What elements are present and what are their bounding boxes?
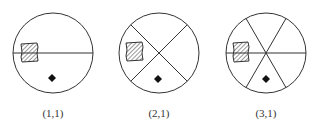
panel-label: (3,1) bbox=[246, 107, 286, 119]
diamond-icon bbox=[262, 75, 270, 83]
diamond-icon bbox=[48, 74, 56, 82]
panel-2-1 bbox=[119, 13, 199, 93]
panel-3-1 bbox=[226, 13, 306, 93]
diamond-icon bbox=[154, 75, 162, 83]
hatched-square-icon bbox=[233, 42, 249, 62]
panel-1-1 bbox=[13, 13, 93, 93]
panel-label: (1,1) bbox=[33, 107, 73, 119]
hatched-square-icon bbox=[126, 42, 143, 61]
hatched-square-icon bbox=[21, 43, 38, 62]
panel-label: (2,1) bbox=[139, 107, 179, 119]
